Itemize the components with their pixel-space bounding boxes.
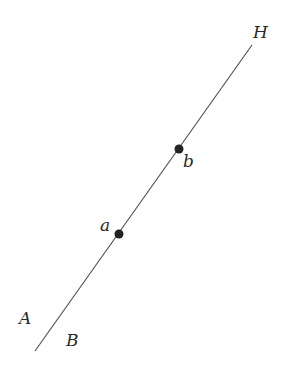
label-a: a — [100, 215, 110, 235]
point-a — [115, 230, 124, 239]
label-B: B — [65, 330, 79, 350]
label-b: b — [183, 151, 194, 171]
diagram-canvas: a b H A B — [0, 0, 281, 372]
label-A: A — [17, 308, 31, 328]
line-AH — [35, 45, 252, 351]
label-H: H — [252, 22, 269, 42]
